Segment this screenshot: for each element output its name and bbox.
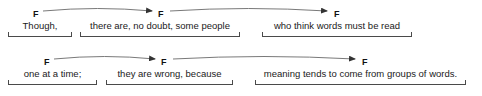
phrase-chunk-text: they are wrong, because [106, 68, 233, 79]
tone-link-arc [43, 9, 152, 12]
phrase-chunk-bracket [8, 32, 72, 37]
intonation-diagram: FFFFFF Though,there are, no doubt, some … [0, 0, 482, 96]
phrase-chunk-bracket [8, 80, 97, 85]
tone-link-arc [54, 57, 155, 60]
phrase-chunk-bracket [262, 32, 412, 37]
tone-label-F: F [362, 58, 368, 67]
phrase-chunk-bracket [255, 80, 466, 85]
phrase-chunk: Though, [8, 20, 72, 38]
tone-link-arc [170, 9, 327, 12]
phrase-chunk: one at a time; [8, 68, 97, 86]
tone-link-arc [173, 57, 355, 60]
phrase-chunk-text: Though, [8, 20, 72, 31]
phrase-chunk-text: meaning tends to come from groups of wor… [255, 68, 466, 79]
phrase-chunk: who think words must be read [262, 20, 412, 38]
phrase-chunk-text: there are, no doubt, some people [80, 20, 240, 31]
phrase-chunk: meaning tends to come from groups of wor… [255, 68, 466, 86]
tone-label-F: F [158, 10, 164, 19]
tone-label-F: F [334, 10, 340, 19]
phrase-chunk-bracket [80, 32, 240, 37]
tone-label-F: F [33, 10, 39, 19]
tone-label-F: F [44, 58, 50, 67]
phrase-chunk-bracket [106, 80, 233, 85]
tone-label-F: F [161, 58, 167, 67]
phrase-chunk: they are wrong, because [106, 68, 233, 86]
phrase-chunk-text: one at a time; [8, 68, 97, 79]
phrase-chunk-text: who think words must be read [262, 20, 412, 31]
phrase-chunk: there are, no doubt, some people [80, 20, 240, 38]
